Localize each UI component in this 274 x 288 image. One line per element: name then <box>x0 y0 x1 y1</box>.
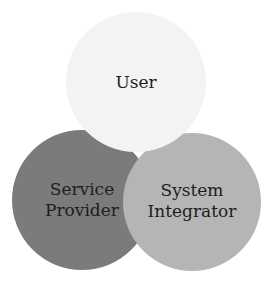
user-circle: User <box>66 12 206 152</box>
system-integrator-circle: System Integrator <box>123 133 261 271</box>
user-label: User <box>115 72 156 93</box>
system-integrator-label: System Integrator <box>148 180 237 222</box>
diagram-canvas: Service Provider System Integrator User <box>0 0 274 288</box>
service-provider-label: Service Provider <box>45 179 119 221</box>
